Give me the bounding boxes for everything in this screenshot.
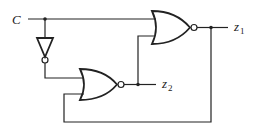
- wire-cnot: [45, 63, 84, 78]
- output-label-z2: z: [161, 76, 167, 91]
- input-label-c: C: [12, 12, 21, 27]
- nor1-gate: [152, 11, 190, 44]
- nor1-bubble: [191, 25, 197, 31]
- junction-z1: [209, 26, 213, 30]
- output-label-z1: z: [233, 19, 239, 34]
- junction-z2: [136, 83, 140, 87]
- circuit-diagram: C z 1 z 2: [0, 0, 256, 129]
- inverter-gate: [37, 38, 53, 57]
- output-sub-z2: 2: [168, 83, 173, 93]
- nor2-bubble: [118, 82, 124, 88]
- junction-c: [43, 17, 47, 21]
- output-sub-z1: 1: [240, 26, 245, 36]
- nor2-gate: [80, 69, 117, 100]
